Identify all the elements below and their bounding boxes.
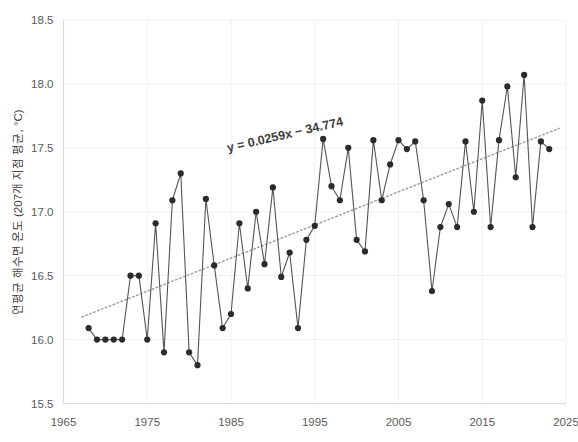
y-tick-label: 16.5 (31, 270, 53, 282)
data-point-marker (354, 237, 360, 243)
x-tick-label: 1965 (51, 416, 77, 428)
data-point-marker (370, 137, 376, 143)
data-point-marker (454, 224, 460, 230)
y-tick-label: 15.5 (31, 398, 53, 410)
data-point-marker (395, 137, 401, 143)
x-tick-label: 2005 (386, 416, 412, 428)
data-point-marker (446, 201, 452, 207)
data-point-marker (211, 262, 217, 268)
data-point-marker (513, 174, 519, 180)
data-point-marker (328, 183, 334, 189)
y-axis-title: 연평균 해수면 온도 (207개 지점 평균, °C) (12, 109, 24, 314)
data-point-marker (320, 136, 326, 142)
data-point-marker (144, 336, 150, 342)
data-point-marker (261, 261, 267, 267)
data-point-marker (127, 273, 133, 279)
data-point-marker (379, 197, 385, 203)
data-point-marker (111, 336, 117, 342)
data-point-marker (462, 138, 468, 144)
y-tick-label: 18.5 (31, 14, 53, 26)
data-point-marker (161, 349, 167, 355)
data-point-marker (404, 146, 410, 152)
y-tick-label: 16.0 (31, 334, 53, 346)
x-tick-label: 1985 (218, 416, 244, 428)
data-point-marker (236, 220, 242, 226)
data-point-marker (253, 209, 259, 215)
x-tick-label: 2025 (553, 416, 578, 428)
data-point-marker (496, 137, 502, 143)
data-point-marker (421, 197, 427, 203)
data-point-marker (504, 83, 510, 89)
data-point-marker (362, 248, 368, 254)
data-point-marker (94, 336, 100, 342)
chart-canvas: 15.516.016.517.017.518.018.5 19651975198… (0, 0, 578, 442)
data-point-marker (546, 146, 552, 152)
data-point-marker (220, 325, 226, 331)
data-point-marker (86, 325, 92, 331)
data-point-marker (228, 311, 234, 317)
data-point-marker (479, 97, 485, 103)
sea-surface-temperature-chart: 15.516.016.517.017.518.018.5 19651975198… (0, 0, 578, 442)
y-tick-label: 17.0 (31, 206, 53, 218)
data-point-marker (429, 288, 435, 294)
data-point-marker (387, 161, 393, 167)
data-point-marker (136, 273, 142, 279)
data-point-marker (529, 224, 535, 230)
data-point-marker (287, 250, 293, 256)
data-point-marker (437, 224, 443, 230)
data-point-marker (345, 145, 351, 151)
data-point-marker (312, 223, 318, 229)
data-point-marker (102, 336, 108, 342)
data-point-marker (119, 336, 125, 342)
y-axis-title-group: 연평균 해수면 온도 (207개 지점 평균, °C) (12, 109, 24, 314)
data-point-marker (521, 72, 527, 78)
data-point-marker (186, 349, 192, 355)
x-tick-label: 1995 (302, 416, 328, 428)
data-point-marker (538, 138, 544, 144)
x-tick-label: 1975 (134, 416, 160, 428)
data-point-marker (488, 224, 494, 230)
data-point-marker (194, 362, 200, 368)
data-point-marker (295, 325, 301, 331)
y-tick-label: 18.0 (31, 78, 53, 90)
data-point-marker (412, 138, 418, 144)
data-point-marker (270, 184, 276, 190)
data-point-marker (169, 197, 175, 203)
data-point-marker (303, 237, 309, 243)
data-point-marker (153, 220, 159, 226)
data-point-marker (178, 170, 184, 176)
y-tick-label: 17.5 (31, 142, 53, 154)
data-point-marker (337, 197, 343, 203)
y-axis-title-text: 연평균 해수면 온도 (207개 지점 평균, °C) (12, 109, 24, 314)
data-point-marker (203, 196, 209, 202)
data-point-marker (471, 209, 477, 215)
data-point-marker (245, 285, 251, 291)
data-point-marker (278, 274, 284, 280)
x-tick-label: 2015 (469, 416, 495, 428)
